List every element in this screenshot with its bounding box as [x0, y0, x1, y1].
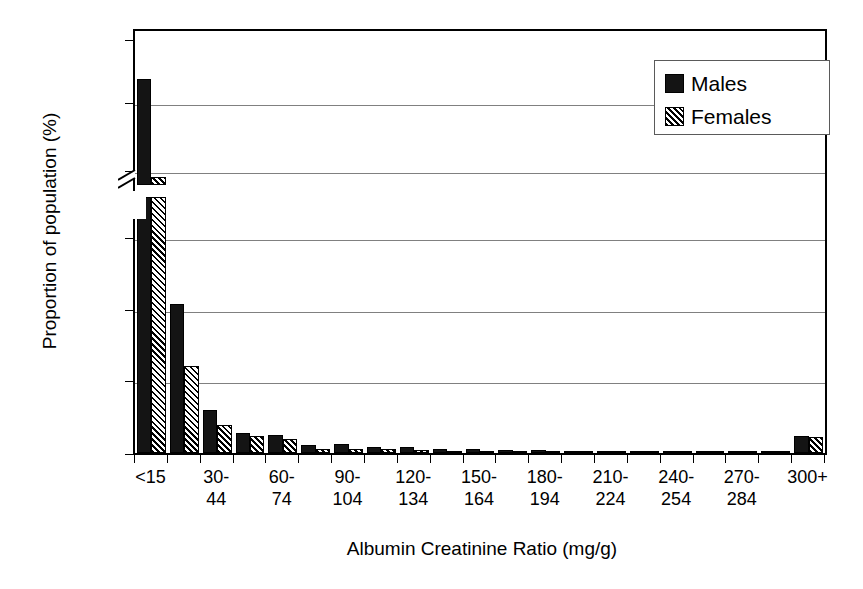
- x-tick-label: 120-134: [378, 466, 448, 510]
- bar-female: [611, 451, 625, 453]
- bar-female: [710, 451, 724, 453]
- bar-group: [367, 31, 396, 453]
- x-tick-mark: [725, 455, 726, 463]
- x-tick-mark: [824, 455, 825, 463]
- bar-female: [184, 366, 198, 453]
- x-tick-mark: [397, 455, 398, 463]
- bar-male: [630, 451, 644, 453]
- bar-male: [268, 435, 282, 453]
- x-tick-label-line2: 44: [181, 488, 251, 510]
- legend-swatch-females-icon: [665, 107, 684, 126]
- bar-female: [480, 451, 494, 453]
- x-tick-label-line1: 240-: [641, 466, 711, 488]
- bar-group: [597, 31, 626, 453]
- bar-group: [236, 31, 265, 453]
- bar-female: [743, 451, 757, 453]
- bar-group: [564, 31, 593, 453]
- x-tick-label-line1: 120-: [378, 466, 448, 488]
- bar-male: [597, 451, 611, 453]
- bar-male: [236, 433, 250, 453]
- legend: Males Females: [654, 60, 830, 135]
- bar-male: [170, 304, 184, 453]
- legend-item-females: Females: [665, 100, 829, 133]
- x-tick-label-line1: 150-: [444, 466, 514, 488]
- x-tick-label-line2: 284: [707, 488, 777, 510]
- chart-figure: Proportion of population (%) 90 85 80 15…: [0, 0, 863, 589]
- bar-female: [644, 451, 658, 453]
- legend-swatch-males-icon: [665, 74, 684, 93]
- x-tick-label-line1: 300+: [773, 466, 843, 488]
- bar-male: [564, 451, 578, 453]
- bar-female: [447, 451, 461, 453]
- x-tick-label-line2: 194: [510, 488, 580, 510]
- x-tick-label-line1: 270-: [707, 466, 777, 488]
- x-tick-label-line2: 254: [641, 488, 711, 510]
- x-tick-label-line1: 90-: [313, 466, 383, 488]
- bar-group: [170, 31, 199, 453]
- x-tick-mark: [233, 455, 234, 463]
- bar-male: [466, 449, 480, 453]
- bar-group: [498, 31, 527, 453]
- x-tick-mark: [265, 455, 266, 463]
- bar-group: [301, 31, 330, 453]
- x-tick-label: 300+: [773, 466, 843, 488]
- x-tick-mark: [594, 455, 595, 463]
- bar-female: [579, 451, 593, 453]
- bar-male: [761, 451, 775, 453]
- bar-female: [546, 451, 560, 453]
- bar-female: [513, 451, 527, 453]
- x-tick-label: <15: [115, 466, 185, 488]
- bar-female: [316, 449, 330, 453]
- legend-item-males: Males: [665, 67, 829, 100]
- bar-female: [283, 439, 297, 453]
- x-tick-label-line2: 224: [575, 488, 645, 510]
- x-tick-mark: [495, 455, 496, 463]
- x-tick-mark: [298, 455, 299, 463]
- legend-label-males: Males: [691, 73, 747, 94]
- x-tick-label-line2: 74: [247, 488, 317, 510]
- x-tick-label: 180-194: [510, 466, 580, 510]
- x-tick-mark: [791, 455, 792, 463]
- bar-male: [696, 451, 710, 453]
- legend-label-females: Females: [691, 106, 772, 127]
- x-tick-label-line1: 60-: [247, 466, 317, 488]
- x-tick-label-line1: <15: [115, 466, 185, 488]
- bar-male: [400, 447, 414, 453]
- x-tick-mark: [200, 455, 201, 463]
- bar-male: [433, 449, 447, 453]
- bar-female: [217, 425, 231, 453]
- bar-female: [381, 449, 395, 453]
- x-tick-label-line1: 210-: [575, 466, 645, 488]
- bar-group: [203, 31, 232, 453]
- x-tick-mark: [758, 455, 759, 463]
- x-tick-mark: [430, 455, 431, 463]
- x-tick-label: 30-44: [181, 466, 251, 510]
- bar-female: [151, 197, 165, 453]
- x-tick-mark: [627, 455, 628, 463]
- bar-male: [531, 450, 545, 453]
- bar-male: [137, 197, 151, 453]
- x-tick-mark: [167, 455, 168, 463]
- x-tick-label-line2: 164: [444, 488, 514, 510]
- bar-female: [349, 449, 363, 453]
- bar-group: [433, 31, 462, 453]
- x-tick-label-line1: 30-: [181, 466, 251, 488]
- x-tick-label-line2: 104: [313, 488, 383, 510]
- bar-female: [809, 437, 823, 453]
- bar-male: [498, 450, 512, 453]
- x-tick-label: 60-74: [247, 466, 317, 510]
- bar-group: [268, 31, 297, 453]
- axis-break-icon: [118, 158, 152, 204]
- bar-group: [137, 31, 166, 453]
- x-tick-mark: [528, 455, 529, 463]
- x-tick-mark: [660, 455, 661, 463]
- x-tick-label: 210-224: [575, 466, 645, 510]
- x-tick-mark: [463, 455, 464, 463]
- x-axis-title: Albumin Creatinine Ratio (mg/g): [133, 538, 831, 560]
- bar-group: [531, 31, 560, 453]
- bar-group: [466, 31, 495, 453]
- bar-female: [776, 451, 790, 453]
- x-tick-label: 270-284: [707, 466, 777, 510]
- x-tick-label: 240-254: [641, 466, 711, 510]
- x-tick-mark: [561, 455, 562, 463]
